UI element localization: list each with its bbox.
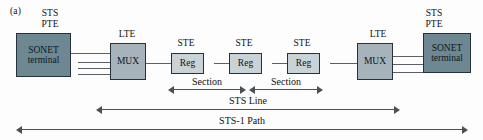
caption-left-terminal: STS PTE xyxy=(26,8,74,29)
span-arrow-section-1 xyxy=(168,85,246,94)
arrowhead-right-icon xyxy=(394,106,400,114)
span-arrow-sts-path xyxy=(16,125,468,134)
arrowhead-right-icon xyxy=(317,86,323,94)
arrowhead-right-icon xyxy=(240,86,246,94)
node-right-terminal-label: SONET terminal xyxy=(431,43,463,64)
link-right-mux-to-terminal xyxy=(393,56,423,57)
arrow-shaft xyxy=(253,89,319,90)
caption-right-terminal: STS PTE xyxy=(410,8,458,29)
sonet-layers-diagram: (a) STS PTE LTE STE STE STE LTE STS PTE … xyxy=(0,0,483,140)
caption-reg-1: STE xyxy=(166,38,206,49)
link-left-terminal-to-mux xyxy=(71,53,111,54)
node-reg-1-label: Reg xyxy=(180,58,195,69)
node-left-terminal-label: SONET terminal xyxy=(28,45,60,66)
node-right-mux[interactable]: MUX xyxy=(357,43,393,80)
tributary-left-1 xyxy=(78,62,111,63)
arrow-shaft xyxy=(100,109,396,110)
node-reg-3-label: Reg xyxy=(296,58,311,69)
arrow-shaft xyxy=(20,129,464,130)
tributary-right-2 xyxy=(393,64,426,65)
span-arrow-sts-line xyxy=(96,105,400,114)
node-reg-2[interactable]: Reg xyxy=(229,53,262,74)
caption-left-mux: LTE xyxy=(104,29,150,40)
link-left-mux-to-reg-1 xyxy=(146,63,172,64)
node-reg-1[interactable]: Reg xyxy=(171,53,204,74)
node-left-mux-label: MUX xyxy=(117,56,139,67)
panel-label: (a) xyxy=(10,6,21,16)
caption-reg-2: STE xyxy=(224,38,264,49)
node-left-terminal[interactable]: SONET terminal xyxy=(16,33,71,77)
arrowhead-right-icon xyxy=(462,126,468,134)
node-right-mux-label: MUX xyxy=(364,56,386,67)
caption-reg-3: STE xyxy=(282,38,322,49)
tributary-left-2 xyxy=(78,68,111,69)
link-reg-3-to-right-mux xyxy=(330,63,358,64)
caption-right-mux: LTE xyxy=(355,29,401,40)
span-arrow-section-2 xyxy=(249,85,323,94)
node-right-terminal[interactable]: SONET terminal xyxy=(423,33,471,73)
tributary-right-3 xyxy=(393,72,426,73)
arrow-shaft xyxy=(172,89,242,90)
node-left-mux[interactable]: MUX xyxy=(110,43,146,80)
node-reg-2-label: Reg xyxy=(238,58,253,69)
node-reg-3[interactable]: Reg xyxy=(287,53,320,74)
tributary-left-3 xyxy=(78,74,111,75)
